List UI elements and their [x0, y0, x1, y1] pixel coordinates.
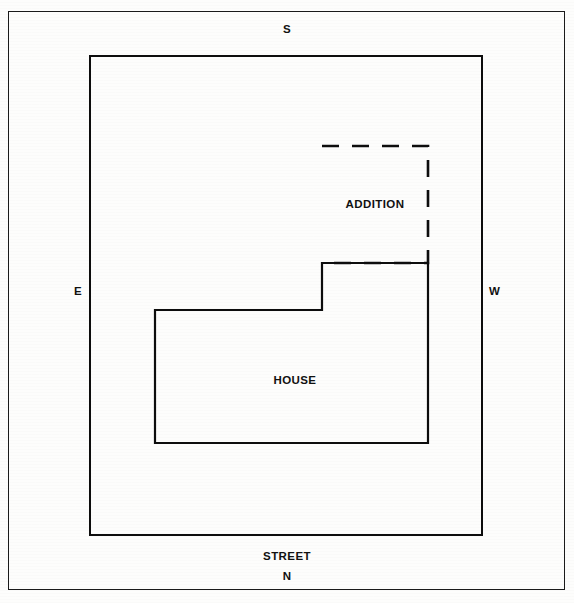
compass-label-west: W: [489, 285, 500, 297]
addition-label: ADDITION: [330, 198, 420, 210]
compass-label-east: E: [74, 285, 82, 297]
lot-boundary-rectangle: [89, 55, 483, 536]
compass-label-south: S: [0, 23, 574, 35]
compass-label-north: N: [0, 570, 574, 582]
house-label: HOUSE: [250, 374, 340, 386]
figure-caption-sliver: [10, 594, 370, 603]
site-plan-figure: S E W STREET N HOUSE ADDITION: [0, 0, 574, 603]
street-label: STREET: [0, 550, 574, 562]
